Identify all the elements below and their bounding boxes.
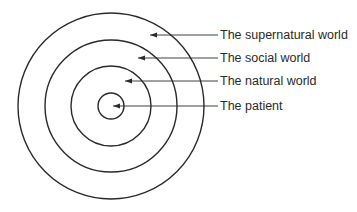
label-patient: The patient bbox=[220, 99, 283, 113]
arrowhead-natural-icon bbox=[125, 79, 132, 84]
arrowhead-social-icon bbox=[138, 56, 145, 61]
arrowhead-patient-icon bbox=[113, 104, 120, 109]
label-social-world: The social world bbox=[220, 51, 310, 65]
arrowhead-supernatural-icon bbox=[150, 33, 157, 38]
label-supernatural-world: The supernatural world bbox=[220, 28, 348, 42]
label-natural-world: The natural world bbox=[220, 74, 317, 88]
